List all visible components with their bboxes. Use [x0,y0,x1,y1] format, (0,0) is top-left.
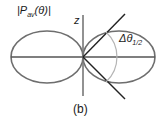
caption: (b) [73,103,88,115]
angle-label-main: Δθ [119,32,132,44]
function-label: |Pav(θ)| [17,5,51,18]
function-label-main: |P [17,4,27,16]
z-axis-label: z [74,15,80,26]
function-label-sub: av [27,11,34,18]
function-label-arg: (θ)| [35,4,51,16]
angle-label: Δθ1/2 [119,33,142,46]
half-power-line-lower [83,57,125,99]
angle-label-sub: 1/2 [132,39,142,46]
